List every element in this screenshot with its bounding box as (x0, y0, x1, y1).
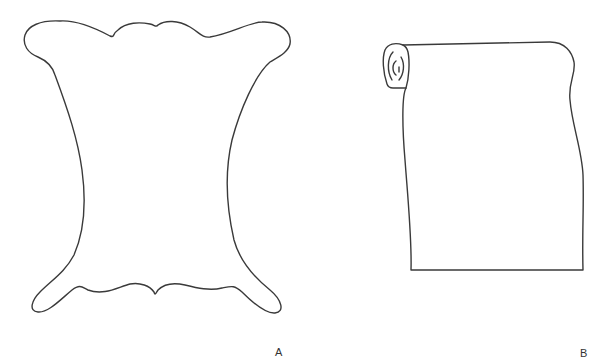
panel-label-a: A (275, 347, 282, 358)
scroll-shape (383, 42, 583, 270)
figure-canvas (0, 0, 609, 362)
hide-shape (24, 21, 290, 313)
panel-label-b: B (580, 348, 587, 359)
